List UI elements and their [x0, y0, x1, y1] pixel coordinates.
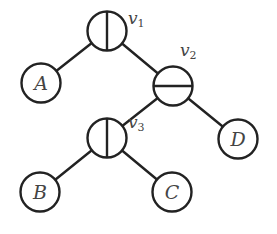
tree-diagram: v1v2v3ABCD [0, 0, 277, 234]
leaf-node-B: B [21, 173, 60, 212]
node-label-v2: v2 [180, 40, 197, 62]
label-subscript: 2 [190, 49, 197, 62]
leaf-node-A: A [22, 64, 61, 103]
leaf-label-D: D [229, 128, 245, 150]
label-subscript: 1 [138, 17, 145, 30]
nodes-group: v1v2v3ABCD [21, 8, 258, 212]
leaf-label-A: A [32, 72, 48, 94]
edges-group [40, 31, 238, 192]
tree-svg: v1v2v3ABCD [0, 0, 277, 234]
leaf-node-D: D [219, 120, 258, 159]
label-subscript: 3 [138, 121, 145, 134]
leaf-label-C: C [165, 181, 180, 203]
node-label-v3: v3 [128, 112, 145, 134]
label-main: v [128, 112, 138, 132]
internal-node-v3: v3 [88, 112, 145, 158]
internal-node-v1: v1 [88, 8, 145, 51]
label-main: v [128, 8, 138, 28]
leaf-label-B: B [32, 181, 47, 203]
label-main: v [180, 40, 190, 60]
leaf-node-C: C [153, 173, 192, 212]
node-label-v1: v1 [128, 8, 145, 30]
internal-node-v2: v2 [154, 40, 197, 106]
